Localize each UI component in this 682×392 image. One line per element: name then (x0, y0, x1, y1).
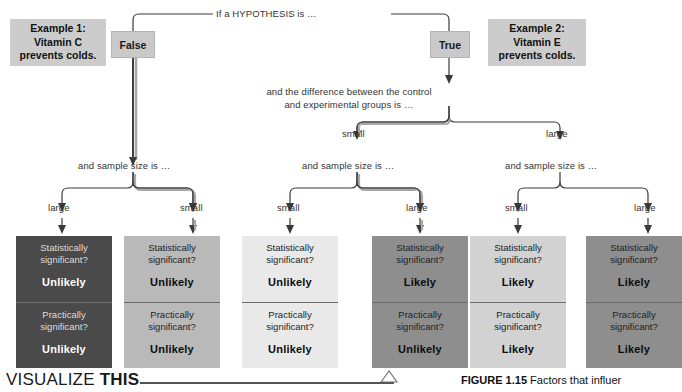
outcome-1-statistical-answer: Unlikely (20, 276, 108, 288)
outcome-4-statistical-answer: Likely (376, 276, 464, 288)
sample-size-label-1: large (48, 202, 70, 213)
outcome-2-practical-answer: Unlikely (128, 343, 216, 355)
branch-node-true[interactable]: True (430, 31, 470, 58)
question-practical-line2: significant? (590, 321, 678, 333)
outcome-4-practical-cell: Practically significant? Unlikely (372, 302, 468, 368)
question-practical-line1: Practically (20, 309, 108, 321)
outcome-column-3: Statistically significant? Unlikely Prac… (242, 236, 338, 368)
sample-size-label-6: large (634, 202, 656, 213)
question-statistical-line1: Statistically (590, 242, 678, 254)
question-practical-line1: Practically (376, 309, 464, 321)
question-statistical-line2: significant? (474, 254, 562, 266)
sample-size-label-3: small (277, 202, 300, 213)
sample-size-label-4: large (406, 202, 428, 213)
outcome-3-statistical-answer: Unlikely (246, 276, 334, 288)
outcome-column-5: Statistically significant? Likely Practi… (470, 236, 566, 368)
figure-caption-text: Factors that influer (530, 374, 621, 386)
question-practical-line1: Practically (128, 309, 216, 321)
outcome-5-statistical-answer: Likely (474, 276, 562, 288)
figure-root: If a HYPOTHESIS is … Example 1: Vitamin … (0, 0, 682, 392)
triangle-marker (381, 371, 397, 382)
sample-size-label-5: small (505, 202, 528, 213)
difference-option-large: large (546, 128, 568, 139)
question-practical-line2: significant? (128, 321, 216, 333)
outcome-6-practical-cell: Practically significant? Likely (586, 302, 682, 368)
question-practical-line2: significant? (376, 321, 464, 333)
example-1-line1: Example 1: (19, 22, 96, 36)
question-practical-line1: Practically (474, 309, 562, 321)
outcome-column-4: Statistically significant? Likely Practi… (372, 236, 468, 368)
outcome-6-practical-answer: Likely (590, 343, 678, 355)
outcome-1-practical-cell: Practically significant? Unlikely (16, 302, 112, 368)
question-statistical-line1: Statistically (474, 242, 562, 254)
question-statistical-line2: significant? (376, 254, 464, 266)
difference-prompt: and the difference between the control a… (249, 86, 449, 111)
outcome-2-statistical-answer: Unlikely (128, 276, 216, 288)
sample-size-prompt-right: and sample size is … (505, 160, 597, 171)
example-2-line2: Vitamin E (498, 36, 575, 50)
outcome-2-practical-cell: Practically significant? Unlikely (124, 302, 220, 368)
question-statistical-line2: significant? (246, 254, 334, 266)
question-statistical-line1: Statistically (246, 242, 334, 254)
sample-size-label-2: small (180, 202, 203, 213)
outcome-column-6: Statistically significant? Likely Practi… (586, 236, 682, 368)
outcome-1-statistical-cell: Statistically significant? Unlikely (16, 236, 112, 302)
question-practical-line1: Practically (246, 309, 334, 321)
outcome-2-statistical-cell: Statistically significant? Unlikely (124, 236, 220, 302)
branch-node-false[interactable]: False (111, 31, 155, 58)
question-statistical-line2: significant? (128, 254, 216, 266)
outcome-1-practical-answer: Unlikely (20, 343, 108, 355)
outcome-6-statistical-cell: Statistically significant? Likely (586, 236, 682, 302)
outcome-3-statistical-cell: Statistically significant? Unlikely (242, 236, 338, 302)
outcome-4-statistical-cell: Statistically significant? Likely (372, 236, 468, 302)
outcome-4-practical-answer: Unlikely (376, 343, 464, 355)
question-statistical-line1: Statistically (20, 242, 108, 254)
sample-size-prompt-left: and sample size is … (78, 160, 170, 171)
question-practical-line2: significant? (474, 321, 562, 333)
outcome-column-1: Statistically significant? Unlikely Prac… (16, 236, 112, 368)
outcome-3-practical-cell: Practically significant? Unlikely (242, 302, 338, 368)
outcome-5-statistical-cell: Statistically significant? Likely (470, 236, 566, 302)
question-statistical-line2: significant? (590, 254, 678, 266)
figure-caption: FIGURE 1.15 Factors that influer (461, 374, 621, 386)
example-1-line3: prevents colds. (19, 49, 96, 63)
example-2-box: Example 2: Vitamin E prevents colds. (488, 19, 586, 66)
question-statistical-line2: significant? (20, 254, 108, 266)
question-practical-line2: significant? (246, 321, 334, 333)
outcome-column-2: Statistically significant? Unlikely Prac… (124, 236, 220, 368)
difference-prompt-line-1: and the difference between the control (249, 86, 449, 99)
example-1-box: Example 1: Vitamin C prevents colds. (10, 19, 106, 66)
outcome-5-practical-answer: Likely (474, 343, 562, 355)
root-hypothesis-label: If a HYPOTHESIS is … (216, 8, 317, 19)
difference-option-small: small (342, 128, 365, 139)
question-statistical-line1: Statistically (376, 242, 464, 254)
example-2-line3: prevents colds. (498, 49, 575, 63)
question-statistical-line1: Statistically (128, 242, 216, 254)
question-practical-line2: significant? (20, 321, 108, 333)
outcome-5-practical-cell: Practically significant? Likely (470, 302, 566, 368)
figure-number: FIGURE 1.15 (461, 374, 527, 386)
outcome-3-practical-answer: Unlikely (246, 343, 334, 355)
difference-prompt-line-2: and experimental groups is … (249, 99, 449, 112)
example-2-line1: Example 2: (498, 22, 575, 36)
question-practical-line1: Practically (590, 309, 678, 321)
example-1-line2: Vitamin C (19, 36, 96, 50)
outcome-6-statistical-answer: Likely (590, 276, 678, 288)
sample-size-prompt-middle: and sample size is … (302, 160, 394, 171)
